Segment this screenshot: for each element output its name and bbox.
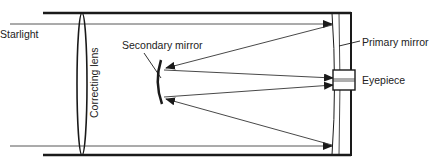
correcting-lens-label: Correcting lens [88, 47, 100, 118]
primary-pointer [339, 41, 360, 46]
secondary-mirror-label: Secondary mirror [122, 39, 203, 51]
eyepiece-label: Eyepiece [362, 74, 405, 86]
primary-mirror-label: Primary mirror [362, 36, 429, 48]
telescope-diagram: Starlight Secondary mirror Primary mirro… [0, 0, 433, 167]
eyepiece [333, 70, 355, 90]
secondary-mirror [158, 60, 162, 104]
starlight-label: Starlight [0, 28, 39, 40]
correcting-lens [77, 13, 87, 155]
